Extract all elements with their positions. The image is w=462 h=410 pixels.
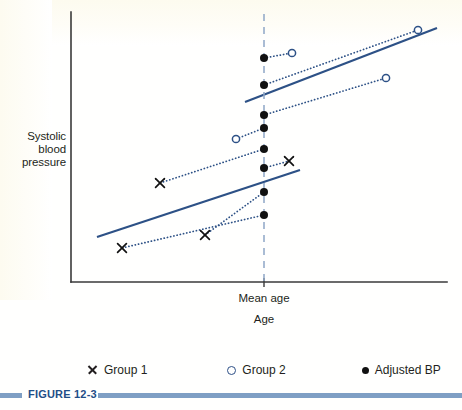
figure-caption-bar: FIGURE 12-3 bbox=[0, 388, 462, 402]
x-axis-tick-label-mean-age: Mean age bbox=[196, 292, 332, 304]
legend-item-group-2: Group 2 bbox=[225, 364, 285, 376]
marker-group-1-4 bbox=[118, 244, 127, 253]
marker-adjusted-bp-8 bbox=[260, 211, 268, 219]
marker-adjusted-bp-3 bbox=[260, 111, 268, 119]
regression-line-2 bbox=[97, 170, 300, 237]
legend-label-group-1: Group 1 bbox=[104, 364, 147, 376]
marker-adjusted-bp-7 bbox=[260, 188, 268, 196]
marker-group-2-3 bbox=[382, 74, 389, 81]
marker-adjusted-bp-4 bbox=[260, 124, 268, 132]
x-axis-title: Age bbox=[196, 313, 332, 325]
regression-line-1 bbox=[245, 28, 437, 102]
figure-rule-left bbox=[0, 393, 22, 398]
y-axis-label-line-1: Systolic bbox=[27, 130, 66, 142]
marker-adjusted-bp-5 bbox=[260, 145, 268, 153]
marker-group-1-3 bbox=[201, 231, 210, 240]
y-axis-label-line-2: blood bbox=[38, 143, 66, 155]
marker-adjusted-bp-6 bbox=[260, 164, 268, 172]
y-axis-label: Systolicbloodpressure bbox=[4, 130, 66, 170]
proj-g2-a bbox=[264, 30, 418, 85]
marker-adjusted-bp-2 bbox=[260, 81, 268, 89]
chart-legend: Group 1 Group 2 Adjusted BP bbox=[0, 358, 462, 382]
legend-item-adjusted-bp: Adjusted BP bbox=[360, 364, 441, 376]
marker-group-1-2 bbox=[156, 179, 165, 188]
marker-group-2-4 bbox=[232, 135, 239, 142]
chart-plot-area: Systolicbloodpressure Mean age Age bbox=[0, 0, 462, 340]
scatter-plot-svg bbox=[0, 0, 462, 340]
legend-label-adjusted-bp: Adjusted BP bbox=[375, 364, 441, 376]
marker-group-2-2 bbox=[288, 49, 295, 56]
axis-group bbox=[71, 12, 447, 287]
figure-page: Systolicbloodpressure Mean age Age Group… bbox=[0, 0, 462, 410]
figure-caption-text: FIGURE 12-3 bbox=[28, 388, 97, 400]
open-circle-marker-icon bbox=[227, 366, 236, 375]
marker-group-2-1 bbox=[414, 26, 421, 33]
filled-dot-marker-icon bbox=[362, 367, 369, 374]
data-markers-group bbox=[118, 26, 422, 252]
proj-g2-c bbox=[264, 78, 386, 115]
figure-rule-right bbox=[98, 393, 462, 398]
y-axis-label-line-3: pressure bbox=[22, 156, 66, 168]
legend-item-group-1: Group 1 bbox=[86, 364, 147, 376]
legend-label-group-2: Group 2 bbox=[242, 364, 285, 376]
proj-g1-b bbox=[160, 149, 264, 183]
proj-g1-d bbox=[122, 215, 264, 248]
proj-g2-d bbox=[236, 128, 264, 139]
projection-lines-group bbox=[122, 30, 418, 248]
marker-adjusted-bp-1 bbox=[260, 54, 268, 62]
cross-marker-icon bbox=[86, 364, 98, 376]
